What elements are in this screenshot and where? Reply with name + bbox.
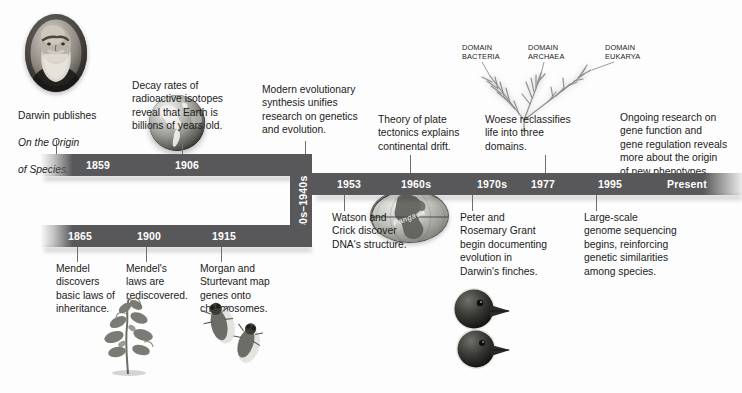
leader-line-mendel-discovers <box>77 247 78 262</box>
caption-synthesis: Modern evolutionary synthesis unifies re… <box>262 83 392 137</box>
leader-line-decay <box>182 138 183 154</box>
caption-decay: Decay rates of radioactive isotopes reve… <box>132 79 256 133</box>
pea-plant <box>92 292 170 376</box>
year-1906: 1906 <box>175 160 199 171</box>
darwin-portrait <box>25 14 87 92</box>
bar-shadow-middle <box>316 195 742 200</box>
leader-line-woese <box>545 155 546 173</box>
caption-woese: Woese reclassifies life into three domai… <box>485 113 591 153</box>
leader-line-darwin <box>56 140 57 154</box>
year-1900: 1900 <box>137 231 161 242</box>
year-1970s: 1970s <box>477 179 507 190</box>
caption-genome: Large-scale genome sequencing begins, re… <box>584 211 700 278</box>
leader-line-mendel-rediscovered <box>146 247 147 262</box>
caption-darwin-line2: On the Origin <box>18 136 138 149</box>
leader-line-morgan <box>221 247 222 262</box>
leader-line-plate-tectonics <box>410 155 411 173</box>
bar-shadow-top <box>44 176 312 181</box>
year-present: Present <box>667 179 707 190</box>
caption-darwin-line1: Darwin publishes <box>18 109 138 122</box>
fruit-flies <box>192 298 278 368</box>
year-1995: 1995 <box>598 179 622 190</box>
caption-ongoing: Ongoing research on gene function and ge… <box>620 111 742 178</box>
caption-grants: Peter and Rosemary Grant begin documenti… <box>460 211 564 278</box>
year-1953: 1953 <box>337 179 361 190</box>
timeline-figure: Darwin publishes On the Origin of Specie… <box>0 0 742 393</box>
year-1865: 1865 <box>68 231 92 242</box>
year-1915: 1915 <box>212 231 236 242</box>
bar-shadow-bottom <box>44 247 312 252</box>
leader-line-watson-crick <box>344 195 345 211</box>
leader-line-genome <box>596 195 597 211</box>
caption-watson-crick: Watson and Crick discover DNA's structur… <box>332 211 424 251</box>
darwin-finches <box>444 287 540 371</box>
year-1859: 1859 <box>86 160 110 171</box>
leader-line-grants <box>472 195 473 211</box>
year-1977: 1977 <box>531 179 555 190</box>
year-1960s: 1960s <box>401 179 431 190</box>
